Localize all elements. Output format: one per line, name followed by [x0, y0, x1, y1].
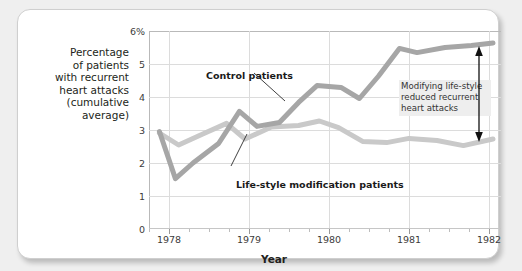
y-tick-label-6: 6%: [130, 26, 145, 37]
x-tick-minor: [389, 229, 390, 232]
x-tick-minor: [309, 229, 310, 232]
annotation-life-style-modification: Life-style modification patients: [236, 179, 404, 190]
x-tick-minor: [449, 229, 450, 232]
y-tick-label-4: 4: [139, 91, 145, 102]
x-tick-minor: [269, 229, 270, 232]
y-tick-label-1: 1: [139, 190, 145, 201]
x-tick-label-1978: 1978: [157, 234, 181, 245]
x-axis-title: Year: [261, 253, 287, 265]
y-tick-label-group: 0 1 2 3 4 5 6%: [114, 31, 145, 229]
chart-screenshot-root: Percentage of patients with recurrent he…: [0, 0, 522, 271]
x-tick-minor: [229, 229, 230, 232]
x-tick-label-1980: 1980: [317, 234, 341, 245]
x-tick-label-1979: 1979: [237, 234, 261, 245]
series-line-life-style-modification-patients: [159, 121, 493, 146]
x-tick-minor: [209, 229, 210, 232]
x-tick-label-1981: 1981: [397, 234, 421, 245]
y-tick-label-5: 5: [139, 59, 145, 70]
x-tick-minor: [469, 229, 470, 232]
x-tick-minor: [349, 229, 350, 232]
plot-area: [149, 31, 501, 229]
y-tick-label-0: 0: [139, 224, 145, 235]
x-tick-minor: [289, 229, 290, 232]
chart-card: Percentage of patients with recurrent he…: [17, 9, 499, 259]
annotation-control-patients: Control patients: [206, 70, 293, 81]
x-tick-minor: [149, 229, 150, 232]
x-tick-label-1982: 1982: [477, 234, 501, 245]
x-tick-minor: [189, 229, 190, 232]
y-tick-label-2: 2: [139, 158, 145, 169]
x-tick-minor: [369, 229, 370, 232]
x-tick-minor: [429, 229, 430, 232]
annotation-difference-callout: Modifying life-style reduced recurrent h…: [399, 80, 491, 116]
series-canvas: [149, 31, 501, 229]
y-tick-label-3: 3: [139, 125, 145, 136]
